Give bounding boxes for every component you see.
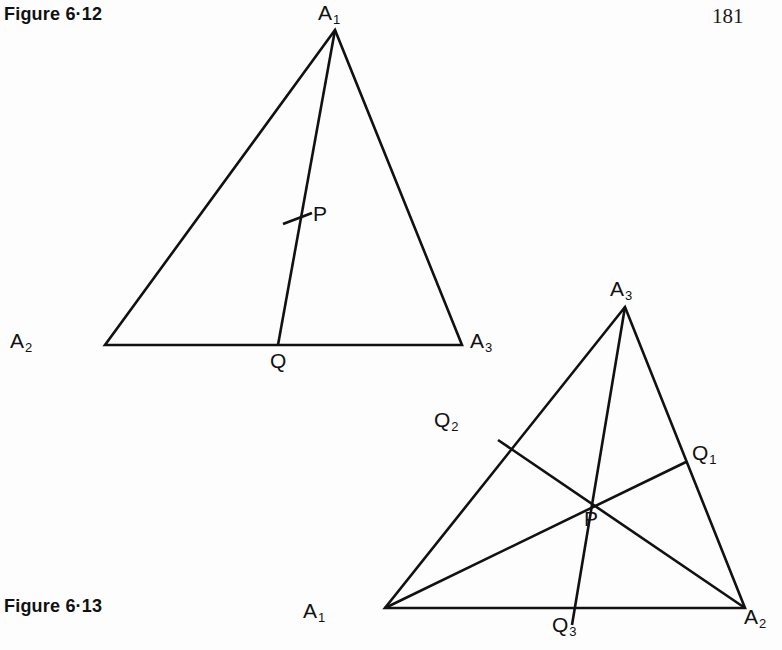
vertex-label-a2-fig2: A2 [744,606,766,630]
vertex-label-a3-fig2-sub: 3 [624,288,632,303]
point-label-q3-fig2: Q3 [552,614,577,638]
point-label-q2-fig2-text: Q [434,408,450,431]
vertex-label-a3-fig2: A3 [610,278,632,302]
vertex-label-a1-fig1-sub: 1 [332,12,340,27]
figure-6-13-drawing [385,307,745,625]
cevian-a1-q-fig1 [278,30,335,345]
point-label-q1-fig2-text: Q [692,441,708,464]
point-label-p-fig1: P [313,203,327,224]
vertex-label-a1-fig2-sub: 1 [317,610,325,625]
vertex-label-a1-fig2-text: A [303,599,317,622]
figure-page: Figure 6·12 181 A1 A2 A3 Q P A3 A1 A2 [0,0,782,650]
vertex-label-a3-fig2-text: A [610,277,624,300]
point-label-p-fig2: P [584,508,598,529]
vertex-label-a2-fig2-text: A [744,605,758,628]
point-label-q3-fig2-text: Q [552,613,568,636]
point-label-q2-fig2-sub: 2 [450,419,458,434]
triangle-a1a2a3-outline-fig2 [385,307,745,608]
point-label-q1-fig2-sub: 1 [708,452,716,467]
figure-caption-bottom: Figure 6·13 [4,596,102,617]
vertex-label-a3-fig1-sub: 3 [484,340,492,355]
point-label-q3-fig2-sub: 3 [568,624,576,639]
point-label-q1-fig2: Q1 [692,442,717,466]
vertex-label-a1-fig2: A1 [303,600,325,624]
geometry-drawing [0,0,782,650]
cevian-a1-q1-fig2 [385,462,686,608]
vertex-label-a1-fig1: A1 [318,2,340,26]
cevian-a3-q3-fig2 [572,307,625,625]
vertex-label-a3-fig1: A3 [470,330,492,354]
vertex-label-a2-fig2-sub: 2 [758,616,766,631]
vertex-label-a2-fig1: A2 [10,330,32,354]
figure-6-12-drawing [105,30,462,345]
vertex-label-a2-fig1-sub: 2 [24,340,32,355]
tick-mark-at-p-fig1 [283,213,312,224]
triangle-a1a2a3-outline-fig1 [105,30,462,345]
point-label-q2-fig2: Q2 [434,409,459,433]
point-label-q-fig1: Q [270,350,286,371]
vertex-label-a3-fig1-text: A [470,329,484,352]
vertex-label-a1-fig1-text: A [318,1,332,24]
vertex-label-a2-fig1-text: A [10,329,24,352]
